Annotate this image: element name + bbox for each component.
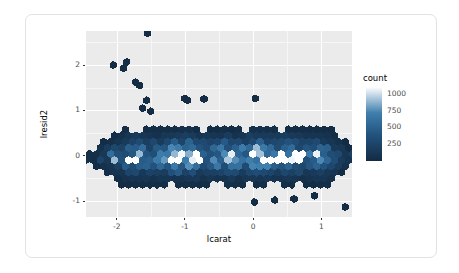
x-tick-mark — [116, 218, 117, 220]
x-axis-label: lcarat — [86, 234, 352, 244]
plot-card: -1012-2-101 lcarat lresid2 count 2505007… — [25, 14, 437, 258]
legend-tick-mark — [382, 110, 385, 111]
hexbin-outlier-cell — [251, 198, 258, 206]
x-tick-label: 0 — [240, 222, 266, 231]
legend-tick-mark — [382, 127, 385, 128]
hexbin-layer — [86, 31, 352, 217]
ggplot-figure: -1012-2-101 lcarat lresid2 count 2505007… — [26, 15, 436, 257]
x-tick-label: -1 — [172, 222, 198, 231]
hexbin-outlier-cell — [143, 96, 150, 104]
x-tick-mark — [184, 218, 185, 220]
y-tick-label: 0 — [54, 151, 80, 160]
legend-tick-mark — [382, 93, 385, 94]
y-tick-label: 1 — [54, 105, 80, 114]
hexbin-outlier-cell — [147, 107, 154, 115]
legend-tick-label: 500 — [387, 122, 401, 131]
hexbin-outlier-cell — [200, 95, 207, 103]
y-tick-mark — [83, 201, 85, 202]
legend-tick-label: 750 — [387, 106, 401, 115]
hexbin-outlier-cell — [110, 61, 117, 69]
x-tick-label: 1 — [308, 222, 334, 231]
legend-tick-mark — [382, 144, 385, 145]
y-tick-mark — [83, 155, 85, 156]
hexbin-outlier-cell — [290, 195, 297, 203]
hexbin-outlier-cell — [252, 95, 259, 103]
x-tick-label: -2 — [104, 222, 130, 231]
y-tick-label: 2 — [54, 60, 80, 69]
y-axis-label: lresid2 — [39, 110, 49, 139]
hexbin-outlier-cell — [271, 196, 278, 204]
y-tick-mark — [83, 65, 85, 66]
legend-tick-label: 1000 — [387, 89, 406, 98]
legend-tick-label: 250 — [387, 139, 401, 148]
x-tick-mark — [253, 218, 254, 220]
hexbin-outlier-cell — [139, 104, 146, 112]
y-tick-mark — [83, 110, 85, 111]
hexbin-outlier-cell — [342, 203, 349, 211]
legend-colorbar — [366, 87, 382, 161]
plot-panel — [86, 31, 352, 217]
x-tick-mark — [321, 218, 322, 220]
y-tick-label: -1 — [54, 196, 80, 205]
hexbin-outlier-cell — [144, 31, 151, 37]
legend-title: count — [363, 73, 387, 83]
hexbin-outlier-cell — [311, 192, 318, 200]
